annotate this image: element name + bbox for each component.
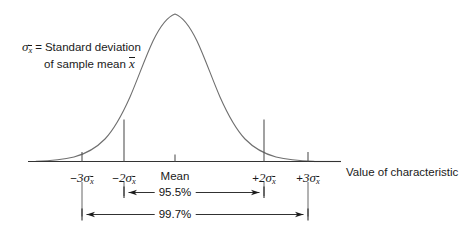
tick-sign: + (296, 172, 303, 184)
legend-line-2: of sample mean x (22, 56, 141, 72)
tick-label-mean: Mean (161, 170, 190, 184)
tick-multiple-sigma: 3σx (77, 170, 94, 185)
tick-subscript: x (272, 176, 276, 186)
distribution-drawing (0, 0, 469, 240)
tick-multiple-sigma: 2σx (259, 170, 276, 185)
tick-label-plus-3-sigma: +3σx (296, 170, 319, 186)
tick-sign: − (70, 172, 77, 184)
x-bar-symbol: x (129, 56, 135, 71)
sigma-definition-legend: σx=Standard deviation of sample mean x (22, 39, 141, 72)
dimension-label-95-5: 95.5% (155, 186, 196, 198)
tick-multiple-sigma: 2σx (119, 170, 136, 185)
tick-subscript: x (132, 176, 136, 186)
sigma-symbol: σx (22, 39, 32, 54)
legend-line-2-text: of sample mean (44, 58, 126, 70)
tick-subscript: x (316, 176, 320, 186)
x-axis-title: Value of characteristic (346, 166, 458, 180)
legend-equals: = (35, 41, 42, 53)
normal-distribution-figure: σx=Standard deviation of sample mean x −… (0, 0, 469, 240)
sigma-subscript: x (28, 45, 32, 55)
tick-sign: + (252, 172, 259, 184)
dimension-label-99-7: 99.7% (155, 208, 196, 220)
legend-line-1: Standard deviation (45, 41, 141, 53)
tick-label-plus-2-sigma: +2σx (252, 170, 275, 186)
tick-label-minus-3-sigma: −3σx (70, 170, 93, 186)
bell-curve-path (36, 14, 314, 161)
tick-sign: − (112, 172, 119, 184)
tick-label-minus-2-sigma: −2σx (112, 170, 135, 186)
tick-subscript: x (90, 176, 94, 186)
tick-multiple-sigma: 3σx (303, 170, 320, 185)
